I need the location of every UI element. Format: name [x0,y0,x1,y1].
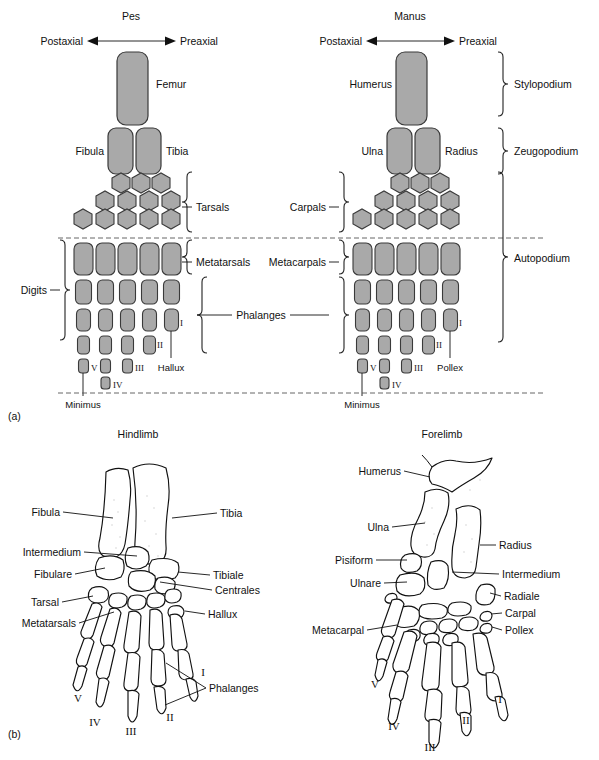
pes-digit-I-numeral: I [180,318,183,328]
forelimb-digit-III [422,642,442,748]
manus-digit-I-numeral: I [459,318,462,328]
hindlimb-intermedium-bone [125,547,149,569]
forelimb-ulna-bone [411,489,449,557]
hindlimb-intermedium-label: Intermedium [23,546,82,558]
forelimb-distal-carpal-4 [420,621,437,635]
forelimb-distal-carpal-2 [448,602,471,616]
hindlimb-digit-II-numeral: II [166,711,174,723]
hindlimb-digit-I-numeral: I [201,666,205,678]
manus-carpals-bracket [329,172,349,232]
hindlimb-tarsal-bone-2 [109,593,127,608]
pes-minimus-label: Minimus [65,399,101,410]
hindlimb-tarsal-bone-1 [88,587,108,603]
phalanges-shared-label: Phalanges [236,309,286,321]
manus-metacarpals-bracket [329,240,349,274]
hindlimb-tibiale-label: Tibiale [213,569,244,581]
forelimb-radiale-label: Radiale [504,590,540,602]
hindlimb-digit-III [124,611,141,722]
manus-digit-II-numeral: II [436,340,442,350]
pes-digit-V-numeral: V [91,363,98,373]
manus-title: Manus [394,10,426,22]
hindlimb-metatarsals-label: Metatarsals [22,617,76,629]
forelimb-humerus-label: Humerus [358,465,401,477]
pes-metatarsal-group [74,243,181,275]
forelimb-digit-I [473,633,508,721]
manus-postaxial-label: Postaxial [319,35,362,47]
manus-minimus-label: Minimus [344,399,380,410]
hindlimb-drawing: Hindlimb [22,428,260,737]
forelimb-intermedium-label: Intermedium [502,568,561,580]
forelimb-pollex-bone [480,623,492,633]
forelimb-radiale-bone [476,584,495,605]
hindlimb-digit-I [170,614,198,701]
hindlimb-digit-III-numeral: III [126,725,137,737]
forelimb-pisiform-bone [401,554,422,573]
forelimb-carpal-small-bone [480,611,492,621]
hindlimb-digit-IV [96,608,121,707]
hindlimb-tarsal-bone-5 [165,589,181,603]
forelimb-metacarpal-label: Metacarpal [312,624,364,636]
panel-a: Pes Postaxial Preaxial Femur Fibula Tibi… [8,10,578,422]
forelimb-ulnare-label: Ulnare [350,577,381,589]
hindlimb-phalanges-label: Phalanges [209,682,259,694]
pes-digit-III-numeral: III [135,363,144,373]
hindlimb-fibulare-bone [95,556,124,580]
panel-a-caption: (a) [8,410,21,422]
pes-digit-II-numeral: II [157,340,163,350]
forelimb-distal-carpal-6 [459,617,478,631]
manus-radius-bone [415,128,440,174]
pes-digit-IV-numeral: IV [113,380,123,390]
hindlimb-digit-II [149,609,166,714]
forelimb-drawing: Forelimb [312,428,561,753]
forelimb-radius-bone [452,506,481,578]
pes-digits-bracket [50,240,70,340]
manus-carpals-label: Carpals [290,201,326,213]
forelimb-distal-carpal-1 [419,604,448,619]
manus-preaxial-label: Preaxial [459,35,497,47]
forelimb-humerus-bone [429,458,492,492]
forelimb-title: Forelimb [422,428,463,440]
hindlimb-tarsal-bone-4 [147,593,165,608]
pes-digits-label: Digits [21,284,47,296]
manus-axis-arrow [366,37,455,46]
pes-title: Pes [122,10,140,22]
hindlimb-tarsal-label: Tarsal [31,596,59,608]
forelimb-digit-I-numeral: I [498,693,502,705]
hindlimb-hallux-label: Hallux [208,608,238,620]
manus-metacarpals-label: Metacarpals [269,256,326,268]
manus-digit-V-numeral: V [370,363,377,373]
pes-tarsals-bracket [182,172,192,232]
pes-metatarsals-label: Metatarsals [196,256,250,268]
pes-phalanges-bracket [197,277,232,353]
forelimb-ulnare-bone [396,573,425,596]
pes-femur-bone [117,52,148,125]
manus-humerus-bone [396,52,427,125]
hindlimb-centrale-bone-1 [128,571,155,592]
pes-preaxial-label: Preaxial [180,35,218,47]
segment-brackets [498,52,508,342]
limb-homology-figure: Pes Postaxial Preaxial Femur Fibula Tibi… [0,0,599,760]
forelimb-intermedium-bone [427,561,448,590]
forelimb-digit-III-numeral: III [425,741,436,753]
manus-humerus-label: Humerus [349,78,392,90]
manus-phalanges-bracket [290,277,349,353]
pes-axis-arrow [87,37,176,46]
manus-ulna-bone [387,128,412,174]
manus-digit-IV-numeral: IV [392,380,402,390]
hindlimb-tibia-label: Tibia [220,507,243,519]
forelimb-pisiform-label: Pisiform [335,554,373,566]
manus-metacarpal-group [353,243,460,275]
forelimb-pollex-label: Pollex [505,624,534,636]
manus-carpal-group [353,173,459,229]
panel-b: Hindlimb [8,428,561,753]
pes-tibia-bone [136,128,161,174]
forelimb-digit-IV-numeral: IV [388,720,400,732]
forelimb-distal-carpal-5 [439,619,457,633]
zeugopodium-label: Zeugopodium [514,145,578,157]
manus-radius-label: Radius [445,145,478,157]
pes-fibula-label: Fibula [75,145,104,157]
hindlimb-fibula-bone [99,468,131,558]
hindlimb-centrales-label: Centrales [215,584,260,596]
hindlimb-title: Hindlimb [118,428,159,440]
pes-fibula-bone [108,128,133,174]
